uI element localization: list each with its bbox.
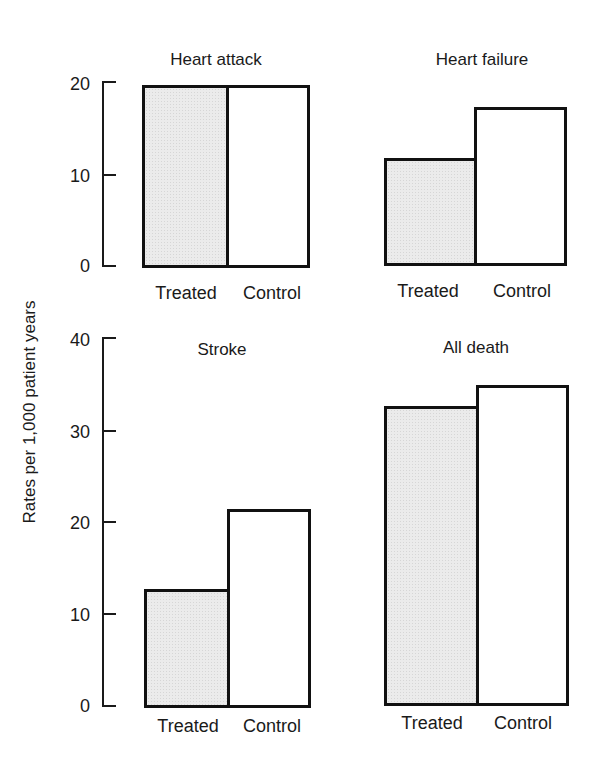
tick-0 <box>102 265 116 267</box>
bar-treated <box>384 158 477 266</box>
tick-label-10: 10 <box>50 166 90 187</box>
tick-label-10: 10 <box>50 605 90 626</box>
category-label-treated: Treated <box>155 283 216 304</box>
tick-label-0: 0 <box>50 256 90 277</box>
panel-title: All death <box>443 338 509 358</box>
y-axis-label: Rates per 1,000 patient years <box>20 297 40 527</box>
bar-treated <box>384 406 479 706</box>
category-label-control: Control <box>493 281 551 302</box>
category-label-treated: Treated <box>157 716 218 737</box>
bar-treated <box>144 589 230 708</box>
tick-40 <box>102 337 116 339</box>
category-label-control: Control <box>494 713 552 734</box>
bar-control <box>474 107 567 266</box>
tick-label-20: 20 <box>50 513 90 534</box>
category-label-control: Control <box>243 716 301 737</box>
bar-treated <box>142 85 229 268</box>
category-label-control: Control <box>243 283 301 304</box>
tick-20 <box>102 81 116 83</box>
panel-title: Stroke <box>197 340 246 360</box>
tick-30 <box>102 430 116 432</box>
tick-label-40: 40 <box>50 330 90 351</box>
panel-title: Heart attack <box>170 50 262 70</box>
tick-label-30: 30 <box>50 422 90 443</box>
bar-control <box>476 385 569 706</box>
tick-label-20: 20 <box>50 74 90 95</box>
bar-control <box>226 85 310 268</box>
bar-control <box>227 509 311 708</box>
category-label-treated: Treated <box>397 281 458 302</box>
panel-title: Heart failure <box>436 50 529 70</box>
tick-label-0: 0 <box>50 696 90 717</box>
tick-10 <box>102 174 116 176</box>
category-label-treated: Treated <box>401 713 462 734</box>
tick-10 <box>102 613 116 615</box>
tick-0 <box>102 705 116 707</box>
tick-20 <box>102 521 116 523</box>
